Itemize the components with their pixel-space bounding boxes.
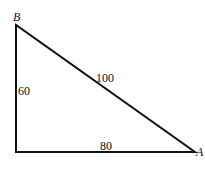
side-label-horizontal: 80: [100, 139, 112, 153]
triangle: [16, 25, 195, 152]
vertex-label-b: B: [13, 10, 21, 24]
vertex-label-a: A: [195, 145, 204, 159]
side-label-hypotenuse: 100: [96, 71, 114, 85]
triangle-diagram: B A 60 100 80: [0, 0, 205, 169]
side-label-vertical: 60: [18, 84, 30, 98]
